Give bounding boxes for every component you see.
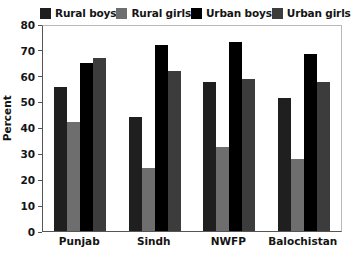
legend-swatch-icon	[191, 8, 202, 19]
x-axis: PunjabSindhNWFPBalochistan	[42, 234, 342, 254]
y-axis-tick-label: 0	[28, 227, 38, 238]
chart-legend: Rural boysRural girlsUrban boysUrban gir…	[40, 5, 348, 21]
y-axis-tick-label: 70	[20, 46, 38, 57]
y-axis-tick-label: 50	[20, 97, 38, 108]
legend-swatch-icon	[272, 8, 283, 19]
bar	[93, 58, 106, 231]
bar	[142, 168, 155, 231]
x-axis-tick-label: NWFP	[191, 236, 266, 247]
x-axis-tick-label: Punjab	[42, 236, 117, 247]
bar	[155, 45, 168, 231]
bar	[67, 122, 80, 231]
bar	[229, 42, 242, 231]
bar-group	[54, 26, 106, 231]
bar	[304, 54, 317, 231]
x-axis-tick-label: Balochistan	[266, 236, 341, 247]
bars-layer	[43, 26, 341, 231]
legend-swatch-icon	[116, 8, 127, 19]
plot-area	[42, 25, 342, 232]
bar-group	[278, 26, 330, 231]
legend-entry: Rural girls	[116, 8, 191, 19]
bar	[168, 71, 181, 231]
legend-entry: Urban boys	[191, 8, 272, 19]
bar	[203, 82, 216, 231]
legend-label: Rural girls	[131, 8, 191, 19]
y-axis-tick-label: 20	[20, 175, 38, 186]
bar	[291, 159, 304, 231]
bar	[242, 79, 255, 231]
y-axis-tick-label: 10	[20, 201, 38, 212]
y-axis-tick-label: 30	[20, 149, 38, 160]
legend-swatch-icon	[40, 8, 51, 19]
legend-entry: Urban girls	[272, 8, 351, 19]
x-axis-tick-label: Sindh	[117, 236, 192, 247]
bar	[216, 147, 229, 231]
bar-group	[203, 26, 255, 231]
y-axis-tick-label: 40	[20, 123, 38, 134]
bar	[278, 98, 291, 231]
legend-label: Urban boys	[206, 8, 272, 19]
y-axis-tick-label: 80	[20, 20, 38, 31]
legend-label: Rural boys	[55, 8, 116, 19]
legend-entry: Rural boys	[40, 8, 116, 19]
bar	[80, 63, 93, 231]
y-axis-tick-label: 60	[20, 72, 38, 83]
bar-chart: Rural boysRural girlsUrban boysUrban gir…	[0, 0, 353, 271]
y-axis-title: Percent	[2, 88, 13, 148]
bar	[317, 82, 330, 231]
bar	[54, 87, 67, 231]
y-axis: Percent 01020304050607080	[0, 25, 42, 232]
bar	[129, 117, 142, 231]
bar-group	[129, 26, 181, 231]
legend-label: Urban girls	[287, 8, 351, 19]
